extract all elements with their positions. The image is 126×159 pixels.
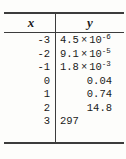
cell-x: 2 xyxy=(8,102,50,116)
cell-x: -2 xyxy=(8,48,50,62)
base: 10 xyxy=(89,61,102,73)
cell-y: 0.74 xyxy=(60,88,112,102)
cell-y: 1.8×10-3 xyxy=(60,61,124,75)
mantissa: 4.5 xyxy=(60,34,79,46)
table-row: 2 14.8 xyxy=(0,102,126,116)
cell-x: 0 xyxy=(8,75,50,89)
cell-y: 9.1×10-5 xyxy=(60,48,124,62)
exponent: -3 xyxy=(102,60,111,68)
exponent: -6 xyxy=(102,33,111,41)
times-symbol: × xyxy=(79,34,89,46)
column-header-x: x xyxy=(8,14,54,32)
cell-x: -1 xyxy=(8,61,50,75)
times-symbol: × xyxy=(79,61,89,73)
column-header-y: y xyxy=(57,14,123,32)
cell-y: 14.8 xyxy=(60,102,112,116)
mantissa: 9.1 xyxy=(60,48,79,60)
cell-y: 4.5×10-6 xyxy=(60,34,124,48)
table-row: 1 0.74 xyxy=(0,88,126,102)
exponent: -5 xyxy=(102,46,111,54)
cell-x: -3 xyxy=(8,34,50,48)
mantissa: 1.8 xyxy=(60,61,79,73)
cell-x: 3 xyxy=(8,115,50,129)
table-header-row: x y xyxy=(0,14,126,32)
table-row: 0 0.04 xyxy=(0,75,126,89)
base: 10 xyxy=(89,48,102,60)
times-symbol: × xyxy=(79,48,89,60)
base: 10 xyxy=(89,34,102,46)
cell-x: 1 xyxy=(8,88,50,102)
cell-y: 0.04 xyxy=(60,75,112,89)
cell-y: 297 xyxy=(60,115,124,129)
table-body: -3 4.5×10-6 -2 9.1×10-5 -1 1.8×10-3 0 0.… xyxy=(0,34,126,129)
table-row: -1 1.8×10-3 xyxy=(0,61,126,75)
table-bottom-rule xyxy=(4,142,124,144)
table-row: 3 297 xyxy=(0,115,126,129)
data-table-figure: x y -3 4.5×10-6 -2 9.1×10-5 -1 1.8×10-3 … xyxy=(0,0,126,159)
